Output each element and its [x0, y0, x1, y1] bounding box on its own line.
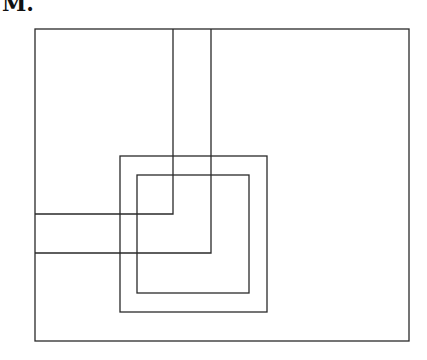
- inner-l-path: [35, 29, 173, 214]
- outer-square: [120, 156, 267, 312]
- inner-square: [137, 175, 249, 293]
- diagram: [0, 0, 427, 360]
- outer-l-path: [35, 29, 211, 253]
- outer-rectangle: [35, 29, 409, 341]
